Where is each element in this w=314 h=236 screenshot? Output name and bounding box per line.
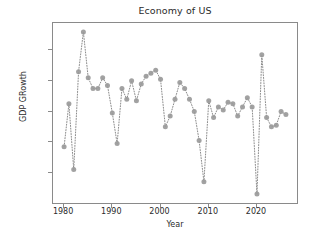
data-point xyxy=(100,75,105,80)
data-point xyxy=(259,52,264,57)
plot-area xyxy=(52,22,298,204)
x-tick-label: 2020 xyxy=(236,207,276,216)
data-point xyxy=(245,95,250,100)
gdp-growth-series xyxy=(53,23,297,203)
data-point xyxy=(81,29,86,34)
data-point xyxy=(177,80,182,85)
data-point xyxy=(124,97,129,102)
data-point xyxy=(230,101,235,106)
data-point xyxy=(119,86,124,91)
data-point xyxy=(197,138,202,143)
data-point xyxy=(95,86,100,91)
data-point xyxy=(62,144,67,149)
y-axis-label: GDP GRowth xyxy=(19,42,28,152)
x-tick-label: 2010 xyxy=(188,207,228,216)
data-point xyxy=(158,77,163,82)
data-point xyxy=(139,81,144,86)
data-point xyxy=(129,78,134,83)
x-tick-label: 1980 xyxy=(43,207,83,216)
data-point xyxy=(283,112,288,117)
data-point xyxy=(187,97,192,102)
data-point xyxy=(173,97,178,102)
data-point xyxy=(279,109,284,114)
data-point xyxy=(66,101,71,106)
data-point xyxy=(134,98,139,103)
data-point xyxy=(153,68,158,73)
data-point xyxy=(201,179,206,184)
chart-figure: Economy of US GDP GRowth Year -0.020.000… xyxy=(0,0,314,236)
data-point xyxy=(192,109,197,114)
data-point xyxy=(269,124,274,129)
data-point xyxy=(71,167,76,172)
data-point xyxy=(221,107,226,112)
data-point xyxy=(235,114,240,119)
data-point xyxy=(206,98,211,103)
data-point xyxy=(250,104,255,109)
data-point xyxy=(86,75,91,80)
data-point xyxy=(115,141,120,146)
data-point xyxy=(182,86,187,91)
data-point xyxy=(144,74,149,79)
chart-title: Economy of US xyxy=(52,5,298,16)
data-point xyxy=(211,115,216,120)
data-point xyxy=(274,123,279,128)
series-line xyxy=(64,32,286,194)
data-point xyxy=(240,104,245,109)
x-tick-label: 2000 xyxy=(140,207,180,216)
data-point xyxy=(168,114,173,119)
data-point xyxy=(91,86,96,91)
data-point xyxy=(226,100,231,105)
data-point xyxy=(264,115,269,120)
data-point xyxy=(216,104,221,109)
data-point xyxy=(254,192,259,197)
data-point xyxy=(105,83,110,88)
data-point xyxy=(76,69,81,74)
data-point xyxy=(148,71,153,76)
data-point xyxy=(110,111,115,116)
x-axis-label: Year xyxy=(52,220,298,229)
x-tick-label: 1990 xyxy=(91,207,131,216)
data-point xyxy=(163,124,168,129)
